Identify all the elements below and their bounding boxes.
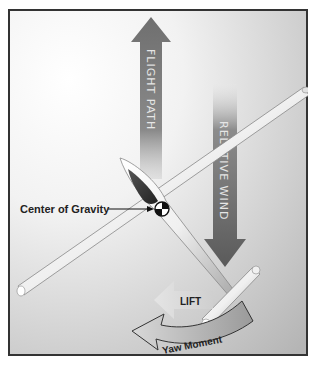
center-of-gravity-label: Center of Gravity [20,203,110,215]
lift-label: LIFT [180,296,201,307]
diagram-frame: FLIGHT PATH RELATIVE WIND Center of Grav… [8,9,308,356]
glider-yaw-diagram: FLIGHT PATH RELATIVE WIND Center of Grav… [8,9,308,356]
center-of-gravity-symbol [155,202,169,216]
flight-path-label: FLIGHT PATH [144,49,157,130]
relative-wind-label: RELATIVE WIND [217,121,230,220]
